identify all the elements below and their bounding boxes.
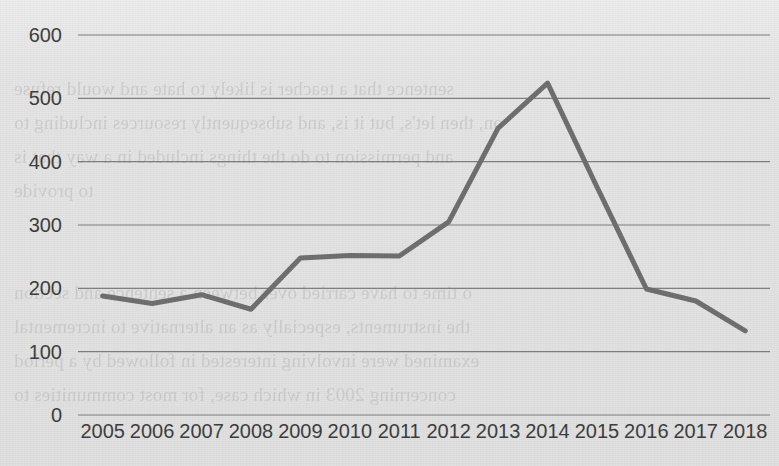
x-axis-tick-label: 2011: [375, 420, 424, 443]
gridlines: [78, 35, 770, 415]
y-axis-tick-label: 200: [29, 277, 62, 300]
x-axis-tick-label: 2012: [424, 420, 473, 443]
data-series-line: [103, 83, 746, 331]
y-axis-tick-label: 100: [29, 340, 62, 363]
y-axis-tick-label: 0: [51, 404, 62, 427]
x-axis-tick-label: 2006: [127, 420, 176, 443]
x-axis-tick-label: 2013: [473, 420, 522, 443]
y-axis-tick-label: 500: [29, 87, 62, 110]
y-axis-tick-label: 600: [29, 24, 62, 47]
x-axis-tick-label: 2008: [226, 420, 275, 443]
x-axis-tick-label: 2015: [572, 420, 621, 443]
x-axis-tick-labels: 2005200620072008200920102011201220132014…: [78, 420, 770, 443]
x-axis-tick-label: 2010: [325, 420, 374, 443]
y-axis-tick-label: 300: [29, 214, 62, 237]
x-axis-tick-label: 2017: [671, 420, 720, 443]
x-axis-tick-label: 2016: [622, 420, 671, 443]
x-axis-tick-label: 2014: [523, 420, 572, 443]
x-axis-tick-label: 2007: [177, 420, 226, 443]
y-axis-tick-labels: 0100200300400500600: [0, 0, 62, 466]
x-axis-tick-label: 2005: [78, 420, 127, 443]
y-axis-tick-label: 400: [29, 150, 62, 173]
x-axis-tick-label: 2009: [276, 420, 325, 443]
line-chart: [0, 0, 779, 466]
x-axis-tick-label: 2018: [720, 420, 769, 443]
